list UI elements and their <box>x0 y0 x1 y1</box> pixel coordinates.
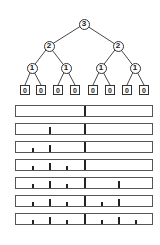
ruler-bar <box>15 195 153 207</box>
leaf-node: 0 <box>139 85 149 95</box>
ruler-tick-tall <box>84 214 86 224</box>
ruler-tick-mid <box>118 217 120 224</box>
tree-node: 1 <box>61 63 72 74</box>
tree-node: 2 <box>44 41 55 52</box>
tree-node: 3 <box>79 19 90 30</box>
tree-node: 1 <box>130 63 141 74</box>
ruler-tick-short <box>66 166 68 170</box>
ruler-tick-mid <box>49 145 51 152</box>
ruler-bar <box>15 159 153 171</box>
tree-node: 2 <box>113 41 124 52</box>
leaf-node: 0 <box>88 85 98 95</box>
ruler-tick-short <box>66 202 68 206</box>
leaf-node: 0 <box>20 85 30 95</box>
ruler-tree-diagram: 322111100000000 <box>0 0 160 245</box>
ruler-bar <box>15 213 153 225</box>
tree-node: 1 <box>27 63 38 74</box>
ruler-tick-short <box>101 202 103 206</box>
leaf-node: 0 <box>122 85 132 95</box>
ruler-tick-mid <box>118 181 120 188</box>
ruler-tick-tall <box>84 106 86 116</box>
ruler-tick-tall <box>84 160 86 170</box>
ruler-bar <box>15 177 153 189</box>
ruler-tick-short <box>32 166 34 170</box>
ruler-tick-short <box>32 220 34 224</box>
ruler-tick-short <box>135 220 137 224</box>
ruler-tick-mid <box>49 217 51 224</box>
leaf-node: 0 <box>70 85 80 95</box>
ruler-tick-tall <box>84 178 86 188</box>
ruler-tick-short <box>101 220 103 224</box>
ruler-tick-mid <box>49 127 51 134</box>
ruler-tick-mid <box>49 163 51 170</box>
ruler-bar <box>15 105 153 117</box>
ruler-tick-short <box>32 184 34 188</box>
ruler-tick-short <box>66 184 68 188</box>
ruler-tick-tall <box>84 124 86 134</box>
ruler-tick-mid <box>118 199 120 206</box>
ruler-tick-short <box>32 202 34 206</box>
ruler-bar <box>15 123 153 135</box>
ruler-tick-tall <box>84 196 86 206</box>
ruler-tick-tall <box>84 142 86 152</box>
ruler-tick-short <box>32 148 34 152</box>
leaf-node: 0 <box>105 85 115 95</box>
ruler-tick-mid <box>49 181 51 188</box>
leaf-node: 0 <box>53 85 63 95</box>
ruler-tick-short <box>66 220 68 224</box>
leaf-node: 0 <box>36 85 46 95</box>
tree-node: 1 <box>96 63 107 74</box>
ruler-tick-mid <box>49 199 51 206</box>
tree-edge <box>49 24 84 46</box>
ruler-bar <box>15 141 153 153</box>
